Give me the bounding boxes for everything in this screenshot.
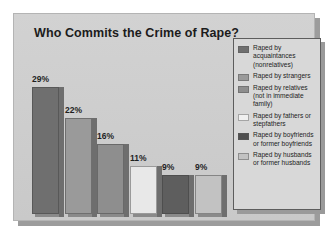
legend-item-label: Raped by strangers <box>253 72 311 80</box>
chart-screenshot: Who Commits the Crime of Rape? 29%22%16%… <box>0 0 333 243</box>
chart-legend: Raped by acquaintances (nonrelatives)Rap… <box>233 38 321 210</box>
chart-panel: Who Commits the Crime of Rape? 29%22%16%… <box>13 13 315 221</box>
plot-area: 29%22%16%11%9%9% <box>29 54 224 214</box>
legend-swatch-icon <box>238 114 249 121</box>
bar-side-face <box>222 175 227 217</box>
legend-item: Raped by husbands or former husbands <box>238 151 316 168</box>
bar-group: 9% <box>162 175 189 214</box>
bar-value-label: 16% <box>97 131 114 141</box>
bar-value-label: 22% <box>65 105 82 115</box>
bar-value-label: 11% <box>130 153 147 163</box>
bar-front-face <box>130 166 157 214</box>
bar-front-face <box>65 118 92 214</box>
legend-item-label: Raped by husbands or former husbands <box>253 151 316 168</box>
bar-group: 9% <box>195 175 222 214</box>
legend-item: Raped by boyfriends or former boyfriends <box>238 131 316 148</box>
legend-item-label: Raped by boyfriends or former boyfriends <box>253 131 316 148</box>
legend-item: Raped by acquaintances (nonrelatives) <box>238 44 316 69</box>
legend-swatch-icon <box>238 74 249 81</box>
bar-group: 29% <box>32 87 59 214</box>
bar-group: 11% <box>130 166 157 214</box>
page-title: Who Commits the Crime of Rape? <box>34 26 239 40</box>
bar-front-face <box>195 175 222 214</box>
bar-value-label: 9% <box>195 162 207 172</box>
bar-series: 29%22%16%11%9%9% <box>29 74 224 214</box>
legend-swatch-icon <box>238 153 249 160</box>
legend-swatch-icon <box>238 46 249 53</box>
bar-side-face <box>189 175 194 217</box>
legend-item: Raped by strangers <box>238 72 316 81</box>
bar-front-face <box>97 144 124 214</box>
bar-group: 16% <box>97 144 124 214</box>
bar-front-face <box>32 87 59 214</box>
bar-group: 22% <box>65 118 92 214</box>
legend-item-label: Raped by acquaintances (nonrelatives) <box>253 44 316 69</box>
bar-side-face <box>124 144 129 217</box>
bar-value-label: 9% <box>162 162 174 172</box>
bar-side-face <box>59 87 64 217</box>
legend-swatch-icon <box>238 86 249 93</box>
bar-front-face <box>162 175 189 214</box>
legend-item: Raped by fathers or stepfathers <box>238 112 316 129</box>
legend-item-label: Raped by relatives (not in immediate fam… <box>253 84 316 109</box>
bar-value-label: 29% <box>32 74 49 84</box>
legend-item-label: Raped by fathers or stepfathers <box>253 112 316 129</box>
legend-swatch-icon <box>238 133 249 140</box>
legend-item: Raped by relatives (not in immediate fam… <box>238 84 316 109</box>
